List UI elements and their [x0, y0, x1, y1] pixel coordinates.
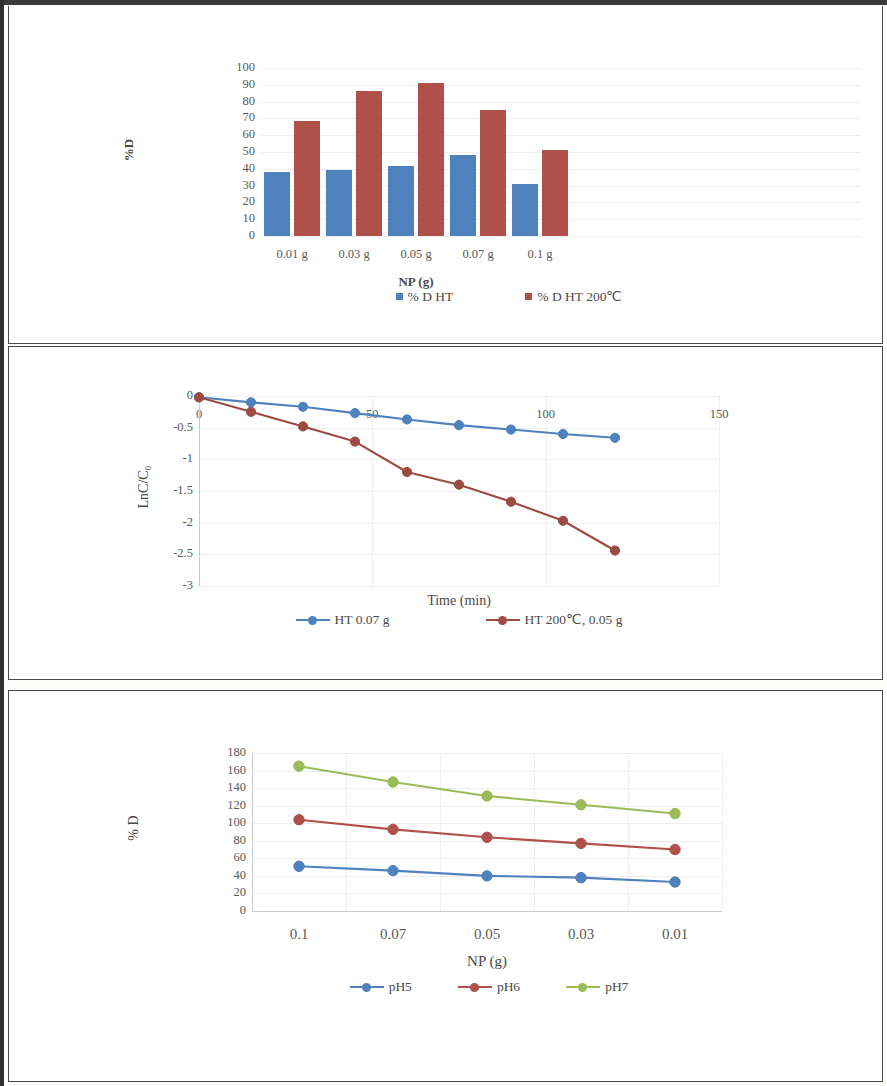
kinetics-marker-ht-0-07-g	[454, 421, 463, 430]
bar-chart-y-tick: 10	[219, 212, 255, 225]
ph-line-ph7	[299, 766, 675, 813]
kinetics-marker-ht-0-07-g	[350, 409, 359, 418]
legend-item: HT 200℃, 0.05 g	[486, 611, 623, 628]
bar-chart-y-tick: 0	[219, 229, 255, 242]
ph-marker-ph7	[294, 761, 304, 771]
kinetics-marker-ht-0-07-g	[402, 415, 411, 424]
legend-label: % D HT	[408, 289, 454, 305]
bar-chart-y-tick: 60	[219, 128, 255, 141]
bar-chart-gridline	[261, 68, 861, 69]
legend-item: pH7	[566, 979, 628, 995]
bar--d-ht-200--0.03g	[356, 91, 382, 236]
kinetics-marker-ht-200-0-05-g	[558, 516, 567, 525]
bar-chart-y-tick: 70	[219, 111, 255, 124]
kinetics-marker-ht-200-0-05-g	[298, 422, 307, 431]
kinetics-chart-legend: HT 0.07 gHT 200℃, 0.05 g	[199, 611, 719, 628]
legend-color-swatch	[396, 293, 403, 300]
legend-label: HT 0.07 g	[335, 612, 390, 628]
kinetics-marker-ht-200-0-05-g	[506, 497, 515, 506]
legend-line-swatch	[566, 982, 600, 992]
bar--d-ht-200--0.07g	[480, 110, 506, 236]
ph-marker-ph6	[294, 815, 304, 825]
ph-chart-x-axis-title: NP (g)	[252, 953, 722, 970]
scanned-page: %D01020304050607080901000.01 g0.03 g0.05…	[0, 0, 887, 1086]
kinetics-marker-ht-200-0-05-g	[350, 437, 359, 446]
legend-line-marker	[470, 983, 479, 992]
bar-chart-y-tick: 90	[219, 78, 255, 91]
bar-chart-y-tick: 40	[219, 162, 255, 175]
ph-chart-x-tick: 0.07	[348, 927, 438, 942]
bar--d-ht-0.01g	[264, 172, 290, 236]
legend-label: pH5	[389, 979, 412, 995]
kinetics-x-axis-title: Time (min)	[199, 593, 719, 609]
legend-line-marker	[362, 983, 371, 992]
bar-chart-gridline	[261, 118, 861, 119]
legend-line-swatch	[486, 615, 520, 625]
ph-marker-ph7	[388, 777, 398, 787]
bar--d-ht-200--0.01g	[294, 121, 320, 236]
bar-chart-y-tick: 100	[219, 61, 255, 74]
ph-marker-ph5	[576, 872, 586, 882]
kinetics-marker-ht-0-07-g	[610, 433, 619, 442]
ph-marker-ph5	[388, 865, 398, 875]
bar-chart-x-tick: 0.1 g	[495, 248, 585, 261]
legend-item: % D HT	[396, 289, 454, 305]
ph-marker-ph6	[670, 844, 680, 854]
ph-chart-x-tick: 0.05	[442, 927, 532, 942]
legend-label: HT 200℃, 0.05 g	[525, 611, 623, 628]
ph-marker-ph7	[576, 800, 586, 810]
bar-chart-gridline	[261, 102, 861, 103]
legend-item: pH6	[458, 979, 520, 995]
kinetics-marker-ht-200-0-05-g	[610, 546, 619, 555]
figure-panel-ph-chart: % D0204060801001201401601800.10.070.050.…	[8, 690, 883, 1082]
legend-item: pH5	[350, 979, 412, 995]
ph-marker-ph5	[482, 871, 492, 881]
legend-line-swatch	[350, 982, 384, 992]
ph-chart-x-tick: 0.03	[536, 927, 626, 942]
ph-chart-x-tick: 0.01	[630, 927, 720, 942]
legend-label: % D HT 200℃	[537, 288, 622, 305]
kinetics-marker-ht-200-0-05-g	[454, 480, 463, 489]
figure-panel-kinetics-chart: LnC/C₀0-0.5-1-1.5-2-2.5-3050100150Time (…	[8, 346, 883, 680]
ph-marker-ph5	[670, 877, 680, 887]
kinetics-marker-ht-0-07-g	[506, 425, 515, 434]
legend-label: pH7	[605, 979, 628, 995]
legend-line-marker	[308, 616, 317, 625]
legend-line-marker	[578, 983, 587, 992]
legend-color-swatch	[525, 293, 532, 300]
ph-marker-ph5	[294, 861, 304, 871]
legend-label: pH6	[497, 979, 520, 995]
page-left-edge	[0, 0, 4, 1086]
bar--d-ht-200--0.05g	[418, 83, 444, 236]
kinetics-marker-ht-200-0-05-g	[402, 467, 411, 476]
bar-chart-gridline	[261, 236, 861, 237]
ph-chart-x-tick: 0.1	[254, 927, 344, 942]
legend-line-swatch	[458, 982, 492, 992]
bar-chart-gridline	[261, 85, 861, 86]
ph-line-chart: % D0204060801001201401601800.10.070.050.…	[9, 691, 882, 1081]
ph-marker-ph6	[482, 832, 492, 842]
ph-marker-ph7	[482, 791, 492, 801]
kinetics-line-chart: LnC/C₀0-0.5-1-1.5-2-2.5-3050100150Time (…	[9, 347, 882, 679]
legend-line-marker	[498, 616, 507, 625]
bar-chart-gridline	[261, 135, 861, 136]
kinetics-marker-ht-200-0-05-g	[246, 407, 255, 416]
bar--d-ht-0.03g	[326, 170, 352, 236]
kinetics-marker-ht-0-07-g	[298, 402, 307, 411]
bar--d-ht-0.07g	[450, 155, 476, 236]
bar--d-ht-0.1g	[512, 184, 538, 236]
ph-marker-ph6	[388, 824, 398, 834]
kinetics-marker-ht-0-07-g	[558, 429, 567, 438]
bar--d-ht-0.05g	[388, 166, 414, 236]
bar-chart-legend: % D HT% D HT 200℃	[309, 288, 709, 305]
bar-chart-y-tick: 50	[219, 145, 255, 158]
legend-line-swatch	[296, 615, 330, 625]
ph-marker-ph6	[576, 838, 586, 848]
ph-chart-legend: pH5pH6pH7	[289, 979, 689, 995]
figure-panel-bar-chart: %D01020304050607080901000.01 g0.03 g0.05…	[8, 6, 883, 344]
kinetics-marker-ht-0-07-g	[246, 398, 255, 407]
bar-chart-y-tick: 20	[219, 195, 255, 208]
bar--d-ht-200--0.1g	[542, 150, 568, 236]
kinetics-marker-ht-200-0-05-g	[194, 393, 203, 402]
bar-chart-y-tick: 30	[219, 179, 255, 192]
